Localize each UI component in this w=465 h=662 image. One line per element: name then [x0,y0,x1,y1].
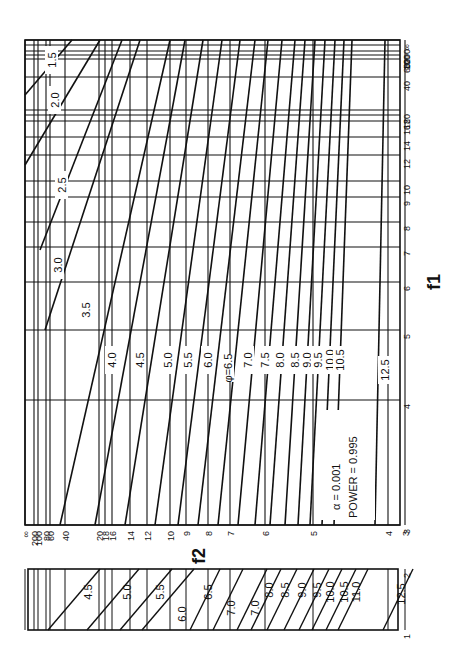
inset-phi-label: 4.5 [82,584,94,599]
inset-phi-label: 8.5 [279,582,291,597]
inset-phi-label: 8.0 [263,582,275,597]
alpha-annotation: α = 0.001 [330,464,342,510]
f2-tick-label: 10 [166,531,176,541]
f1-tick-label: 60 [402,63,412,73]
f2-tick-label: 8 [204,531,214,536]
phi-curve-label: 3.5 [80,302,92,317]
f1-tick-label: 40 [402,81,412,91]
f2-tick-label: 5 [309,531,319,536]
inset-phi-label: 5.5 [154,584,166,599]
phi-curve-label: 5.0 [162,352,174,367]
inset-tick-label: 2 [402,573,412,578]
inset-phi-label: 9.0 [296,582,308,597]
inset-phi-label: 6.5 [202,584,214,599]
f2-tick-label: 12 [143,531,153,541]
phi-curves [25,40,413,630]
inset-phi-label: 10.5 [338,581,350,602]
x-axis-label: f2 [189,548,209,564]
phi-curve-label: 3.0 [52,257,64,272]
phi-curve-label: 5.5 [182,352,194,367]
f1-tick-label: 5 [402,334,412,339]
chart-labels: ∞2001008060402018161412109876543∞2001008… [21,44,412,639]
f2-tick-label: 16 [108,531,118,541]
phi-curve-label: 12.5 [379,359,391,380]
f1-tick-label: 8 [402,226,412,231]
phi-curve-label: φ=6.5 [222,354,234,383]
phi-curve-label: 8.5 [289,352,301,367]
f2-tick-label: 6 [261,531,271,536]
inset-phi-label: 7.0 [249,600,261,615]
y-axis-label: f1 [424,274,444,290]
inset-phi-curve [267,569,297,630]
phi-curve-label: 9.5 [312,352,324,367]
f2-tick-label: 3 [401,531,411,536]
f2-tick-label: 40 [61,531,71,541]
f2-tick-label: 9 [182,531,192,536]
phi-curve-label: 8.0 [274,352,286,367]
inset-phi-curve [251,569,281,630]
f1-tick-label: 10 [402,185,412,195]
f2-tick-label: 4 [384,531,394,536]
phi-curve-label: 4.5 [134,352,146,367]
f1-tick-label: 9 [402,201,412,206]
f1-tick-label: 14 [402,141,412,151]
phi-curve-label: 10.5 [334,349,346,370]
phi-curve-label: 7.0 [242,352,254,367]
inset-tick-label: 1 [402,634,412,639]
f1-tick-label: 12 [402,159,412,169]
inset-phi-label: 11.0 [350,582,362,603]
inset-phi-curve [284,569,314,630]
phi-curve-label: 1.5 [46,52,58,67]
f2-tick-label: 14 [126,531,136,541]
inset-phi-label: 9.5 [311,582,323,597]
inset-phi-curve [237,569,267,630]
inset-phi-label: 10.0 [324,581,336,602]
inset-phi-label: 5.0 [121,584,133,599]
phi-curve-label: 2.5 [56,177,68,192]
inset-phi-label: 7.0 [225,600,237,615]
f1-tick-label: 6 [402,286,412,291]
inset-phi-curve [213,569,243,630]
f1-tick-label: 7 [402,251,412,256]
f2-tick-label: 7 [226,531,236,536]
inset-phi-label: 6.0 [176,606,188,621]
power-annotation: POWER = 0.995 [347,436,359,518]
power-function-chart: ∞2001008060402018161412109876543∞2001008… [0,0,465,662]
phi-curve-label: 2.0 [49,92,61,107]
f2-tick-label: 60 [46,531,56,541]
f1-tick-label: 4 [402,404,412,409]
phi-curve-label: 4.0 [106,352,118,367]
phi-curve-label: 6.0 [202,352,214,367]
phi-curve-label: 7.5 [259,352,271,367]
f1-tick-label: 16 [402,125,412,135]
inset-phi-label: 12.5 [395,583,407,604]
